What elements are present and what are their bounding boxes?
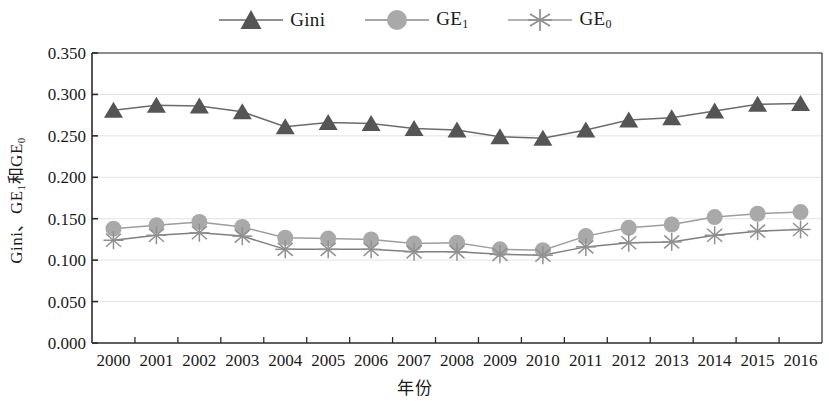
data-point-asterisk	[791, 220, 811, 238]
x-tick-label: 2016	[779, 352, 822, 376]
x-tick-label: 2000	[92, 352, 135, 376]
data-point-asterisk	[576, 238, 596, 256]
chart-container: Gini GE1 GE0 Gini、GE1和GE0	[0, 0, 829, 401]
x-tick-label: 2007	[393, 352, 436, 376]
x-axis-title: 年份	[0, 374, 829, 399]
data-point-asterisk	[705, 226, 725, 244]
data-point-asterisk	[318, 240, 338, 258]
x-tick-label: 2001	[135, 352, 178, 376]
data-point-circle	[793, 204, 809, 220]
y-axis-ticks	[92, 53, 98, 343]
data-point-asterisk	[361, 240, 381, 258]
x-tick-label: 2004	[264, 352, 307, 376]
data-point-asterisk	[619, 234, 639, 252]
data-point-circle	[707, 209, 723, 225]
data-point-asterisk	[662, 233, 682, 251]
data-point-asterisk	[748, 222, 768, 240]
x-tick-label: 2014	[693, 352, 736, 376]
axis-lines	[92, 53, 822, 343]
data-point-asterisk	[232, 227, 252, 245]
x-tick-label: 2003	[221, 352, 264, 376]
x-tick-label: 2002	[178, 352, 221, 376]
x-tick-label: 2005	[307, 352, 350, 376]
data-point-triangle	[576, 122, 595, 138]
data-point-asterisk	[189, 224, 209, 242]
x-axis-ticks	[135, 337, 779, 343]
x-tick-label: 2015	[736, 352, 779, 376]
x-axis-title-text: 年份	[397, 379, 433, 398]
gridlines	[92, 53, 822, 302]
markers-gini	[104, 95, 810, 146]
data-point-asterisk	[447, 243, 467, 261]
data-point-asterisk	[404, 243, 424, 261]
data-point-circle	[621, 220, 637, 236]
x-tick-label: 2011	[564, 352, 607, 376]
data-point-asterisk	[146, 226, 166, 244]
data-point-asterisk	[275, 240, 295, 258]
data-point-asterisk	[103, 231, 123, 249]
x-axis-tick-labels: 2000200120022003200420052006200720082009…	[92, 352, 822, 376]
data-point-circle	[750, 206, 766, 222]
x-tick-label: 2012	[607, 352, 650, 376]
data-point-asterisk	[490, 245, 510, 263]
x-tick-label: 2010	[521, 352, 564, 376]
data-point-asterisk	[533, 246, 553, 264]
x-tick-label: 2013	[650, 352, 693, 376]
plot-area	[0, 0, 829, 401]
data-point-circle	[664, 217, 680, 233]
data-series-layer	[103, 95, 810, 264]
x-tick-label: 2009	[478, 352, 521, 376]
x-tick-label: 2006	[350, 352, 393, 376]
x-tick-label: 2008	[436, 352, 479, 376]
